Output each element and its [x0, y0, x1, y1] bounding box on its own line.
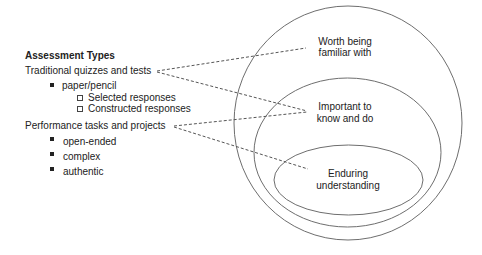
square-bullet-icon — [50, 137, 54, 141]
assessment-types-title: Assessment Types — [25, 50, 115, 61]
hollow-square-bullet-icon — [77, 106, 83, 112]
connector-traditional-to-worth — [157, 48, 306, 71]
item-complex: complex — [63, 151, 100, 162]
ring-enduring-label-line2: understanding — [316, 180, 379, 191]
connector-performance-to-important — [174, 112, 307, 126]
ring-important-label-line2: know and do — [317, 113, 374, 124]
hollow-square-bullet-icon — [77, 95, 83, 101]
item-authentic: authentic — [63, 166, 104, 177]
item-open-ended: open-ended — [63, 136, 116, 147]
subitem-constructed-responses: Constructed responses — [88, 103, 191, 114]
group-traditional-label: Traditional quizzes and tests — [25, 65, 151, 76]
ring-important-label-line1: Important to — [318, 101, 371, 112]
square-bullet-icon — [50, 152, 54, 156]
square-bullet-icon — [50, 83, 54, 87]
ring-worth-label-line2: familiar with — [319, 47, 372, 58]
square-bullet-icon — [50, 167, 54, 171]
subitem-selected-responses: Selected responses — [88, 92, 176, 103]
item-paper-pencil: paper/pencil — [62, 80, 116, 91]
group-performance-label: Performance tasks and projects — [25, 120, 166, 131]
ring-worth-label-line1: Worth being — [318, 36, 372, 47]
ring-enduring-label-line1: Enduring — [328, 168, 368, 179]
